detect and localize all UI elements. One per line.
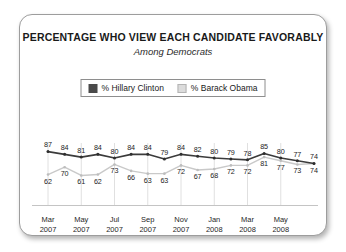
x-axis-tick-label: May2007 (73, 215, 90, 234)
data-label: 84 (144, 143, 152, 152)
data-label: 72 (177, 167, 185, 176)
data-point (296, 159, 299, 162)
tick-year: 2008 (272, 225, 289, 235)
legend-label-clinton: % Hillary Clinton (102, 83, 164, 93)
data-point (263, 152, 266, 155)
data-label: 77 (293, 150, 301, 159)
tick-month: Jul (106, 215, 123, 225)
tick-year: 2007 (173, 225, 190, 235)
data-label: 84 (177, 143, 185, 152)
chart-plot-area: 6270616273666363726768727281777374878481… (26, 121, 322, 207)
legend-swatch-icon-clinton (89, 84, 98, 93)
data-label: 61 (77, 177, 85, 186)
tick-month: Sep (139, 215, 156, 225)
data-point (163, 172, 166, 175)
data-point (296, 163, 299, 166)
data-point (230, 164, 233, 167)
data-point (180, 153, 183, 156)
x-axis-tick-label: Sep2007 (139, 215, 156, 234)
tick-month: May (73, 215, 90, 225)
x-axis-tick-label: Jan2008 (206, 215, 223, 234)
data-label: 74 (310, 166, 318, 175)
data-label: 79 (160, 148, 168, 157)
data-label: 62 (44, 177, 52, 186)
data-point (279, 157, 282, 160)
data-point (130, 170, 133, 173)
data-label: 84 (127, 143, 135, 152)
data-point (163, 157, 166, 160)
data-point (246, 158, 249, 161)
legend-item-obama: % Barack Obama (178, 83, 258, 93)
data-point (47, 150, 50, 153)
chart-subtitle: Among Democrats (20, 46, 326, 57)
data-label: 84 (61, 143, 69, 152)
data-label: 63 (160, 176, 168, 185)
tick-year: 2008 (239, 225, 256, 235)
data-point (113, 163, 116, 166)
tick-month: Nov (173, 215, 190, 225)
data-point (279, 159, 282, 162)
data-label: 63 (144, 176, 152, 185)
data-point (213, 168, 216, 171)
x-axis-labels: Mar2007May2007Jul2007Sep2007Nov2007Jan20… (26, 211, 322, 239)
data-point (196, 169, 199, 172)
data-point (213, 157, 216, 160)
data-point (313, 162, 316, 165)
data-label: 68 (210, 171, 218, 180)
tick-month: May (272, 215, 289, 225)
data-label: 87 (44, 140, 52, 149)
data-label: 80 (210, 147, 218, 156)
data-label: 84 (94, 143, 102, 152)
x-axis-tick-label: Mar2007 (40, 215, 57, 234)
x-axis-tick-label: Mar2008 (239, 215, 256, 234)
data-point (196, 155, 199, 158)
x-axis-tick-label: May2008 (272, 215, 289, 234)
tick-month: Jan (206, 215, 223, 225)
tick-year: 2007 (139, 225, 156, 235)
data-label: 77 (277, 163, 285, 172)
data-point (263, 156, 266, 159)
tick-month: Mar (40, 215, 57, 225)
data-label: 62 (94, 177, 102, 186)
x-axis-tick-label: Nov2007 (173, 215, 190, 234)
data-point (146, 172, 149, 175)
data-label: 80 (111, 147, 119, 156)
data-point (246, 164, 249, 167)
chart-legend: % Hillary Clinton % Barack Obama (81, 79, 266, 97)
data-label: 81 (77, 146, 85, 155)
data-label: 72 (244, 167, 252, 176)
tick-year: 2007 (40, 225, 57, 235)
data-point (80, 156, 83, 159)
data-label: 74 (310, 152, 318, 161)
data-point (180, 164, 183, 167)
data-point (130, 153, 133, 156)
data-label: 67 (194, 172, 202, 181)
data-point (80, 174, 83, 177)
legend-item-clinton: % Hillary Clinton (89, 83, 164, 93)
data-label: 80 (277, 147, 285, 156)
legend-swatch-icon-obama (178, 84, 187, 93)
data-label: 78 (244, 149, 252, 158)
data-label: 85 (260, 142, 268, 151)
data-label: 70 (61, 169, 69, 178)
tick-year: 2007 (106, 225, 123, 235)
data-point (47, 173, 50, 176)
data-label: 73 (111, 166, 119, 175)
line-chart-svg: 6270616273666363726768727281777374878481… (26, 121, 322, 207)
data-label: 81 (260, 159, 268, 168)
data-point (229, 157, 232, 160)
data-label: 82 (194, 145, 202, 154)
data-label: 73 (293, 166, 301, 175)
tick-year: 2007 (73, 225, 90, 235)
x-axis-tick-label: Jul2007 (106, 215, 123, 234)
legend-label-obama: % Barack Obama (191, 83, 258, 93)
data-point (146, 153, 149, 156)
tick-year: 2008 (206, 225, 223, 235)
data-point (63, 153, 66, 156)
tick-month: Mar (239, 215, 256, 225)
chart-screenshot: PERCENTAGE WHO VIEW EACH CANDIDATE FAVOR… (0, 0, 346, 252)
chart-card: PERCENTAGE WHO VIEW EACH CANDIDATE FAVOR… (19, 14, 327, 236)
data-point (96, 153, 99, 156)
data-point (97, 173, 100, 176)
data-label: 72 (227, 167, 235, 176)
